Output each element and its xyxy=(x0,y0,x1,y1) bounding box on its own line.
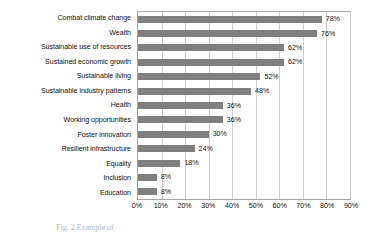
x-tick-label: 20% xyxy=(177,201,191,211)
bar xyxy=(138,188,157,195)
category-row: Sustainable living xyxy=(0,69,135,84)
bar-row: 36% xyxy=(138,98,350,112)
bar xyxy=(138,174,157,181)
category-row: Wealth xyxy=(0,26,135,41)
category-label: Education xyxy=(100,189,131,197)
bar-value-label: 62% xyxy=(288,58,302,66)
bar-row: 48% xyxy=(138,84,350,98)
bar-row: 24% xyxy=(138,142,350,156)
bar-value-label: 36% xyxy=(227,102,241,110)
bar xyxy=(138,59,284,66)
category-row: Education xyxy=(0,185,135,200)
category-label: Resilient infrastructure xyxy=(62,145,131,153)
category-axis: Combat climate changeWealthSustainable u… xyxy=(0,11,135,200)
bar-row: 36% xyxy=(138,113,350,127)
category-row: Health xyxy=(0,98,135,113)
bar-chart: Combat climate changeWealthSustainable u… xyxy=(0,0,370,215)
x-axis: 0%10%20%30%40%50%60%70%80%90% xyxy=(137,201,351,213)
plot-area: 78%76%62%62%52%48%36%36%30%24%18%8%8% xyxy=(137,11,351,200)
x-tick-label: 40% xyxy=(225,201,239,211)
x-tick-label: 50% xyxy=(249,201,263,211)
bar-value-label: 24% xyxy=(199,145,213,153)
bar-series: 78%76%62%62%52%48%36%36%30%24%18%8%8% xyxy=(138,12,350,199)
category-label: Foster innovation xyxy=(77,131,131,139)
bar-value-label: 48% xyxy=(255,87,269,95)
bar-value-label: 78% xyxy=(326,15,340,23)
category-label: Sustainable use of resources xyxy=(41,43,131,51)
bar-value-label: 62% xyxy=(288,44,302,52)
bar-row: 52% xyxy=(138,70,350,84)
category-row: Inclusion xyxy=(0,171,135,186)
gridline xyxy=(350,12,351,199)
category-row: Sustainable use of resources xyxy=(0,40,135,55)
category-label: Working opportunities xyxy=(64,116,131,124)
x-tick-label: 0% xyxy=(132,201,142,211)
bar xyxy=(138,102,223,109)
bar-value-label: 18% xyxy=(184,159,198,167)
category-label: Sustained economic growth xyxy=(45,58,131,66)
bar xyxy=(138,160,180,167)
bar-row: 62% xyxy=(138,55,350,69)
x-tick-label: 30% xyxy=(201,201,215,211)
x-tick-label: 80% xyxy=(320,201,334,211)
bar-row: 18% xyxy=(138,156,350,170)
category-row: Resilient infrastructure xyxy=(0,142,135,157)
figure: Combat climate changeWealthSustainable u… xyxy=(0,0,370,232)
bar-value-label: 8% xyxy=(161,188,171,196)
bar-row: 8% xyxy=(138,185,350,199)
bar xyxy=(138,16,322,23)
bar-row: 78% xyxy=(138,12,350,26)
category-label: Equality xyxy=(106,160,131,168)
x-tick-label: 90% xyxy=(344,201,358,211)
bar-value-label: 76% xyxy=(321,30,335,38)
category-label: Inclusion xyxy=(103,174,131,182)
x-tick-label: 10% xyxy=(154,201,168,211)
category-label: Wealth xyxy=(109,29,131,37)
category-row: Combat climate change xyxy=(0,11,135,26)
bar-row: 76% xyxy=(138,26,350,40)
caption-text: Fig. 2 Example of xyxy=(56,224,114,232)
bar-row: 8% xyxy=(138,170,350,184)
category-row: Foster innovation xyxy=(0,127,135,142)
figure-caption: Fig. 2 Example of xyxy=(0,224,370,232)
category-row: Equality xyxy=(0,156,135,171)
bar xyxy=(138,88,251,95)
bar-value-label: 36% xyxy=(227,116,241,124)
category-row: Sustainable industry patterns xyxy=(0,84,135,99)
bar-value-label: 8% xyxy=(161,173,171,181)
bar-row: 30% xyxy=(138,127,350,141)
category-row: Working opportunities xyxy=(0,113,135,128)
category-label: Combat climate change xyxy=(58,14,131,22)
x-tick-label: 70% xyxy=(296,201,310,211)
bar xyxy=(138,145,195,152)
bar xyxy=(138,131,209,138)
bar xyxy=(138,73,260,80)
category-label: Sustainable industry patterns xyxy=(41,87,131,95)
category-label: Health xyxy=(111,101,131,109)
bar xyxy=(138,116,223,123)
category-row: Sustained economic growth xyxy=(0,55,135,70)
bar xyxy=(138,44,284,51)
category-label: Sustainable living xyxy=(77,72,131,80)
x-tick-label: 60% xyxy=(273,201,287,211)
bar xyxy=(138,30,317,37)
bar-value-label: 30% xyxy=(213,130,227,138)
bar-value-label: 52% xyxy=(264,73,278,81)
bar-row: 62% xyxy=(138,41,350,55)
